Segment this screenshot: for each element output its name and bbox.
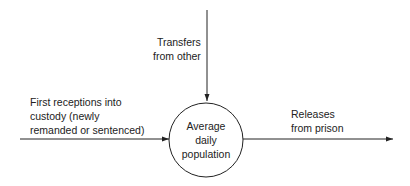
first-receptions-label: First receptions into custody (newly rem… (30, 95, 144, 137)
label-line: Average (166, 119, 246, 133)
population-label: Average daily population (166, 119, 246, 161)
label-line: from prison (291, 121, 344, 135)
label-line: Transfers (153, 35, 201, 49)
label-line: population (166, 147, 246, 161)
label-line: Releases (291, 107, 344, 121)
releases-label: Releases from prison (291, 107, 344, 135)
label-line: custody (newly (30, 109, 144, 123)
label-line: from other (153, 49, 201, 63)
transfers-label: Transfers from other (153, 35, 201, 63)
label-line: daily (166, 133, 246, 147)
label-line: remanded or sentenced) (30, 123, 144, 137)
flow-diagram: Transfers from other First receptions in… (0, 0, 410, 186)
label-line: First receptions into (30, 95, 144, 109)
